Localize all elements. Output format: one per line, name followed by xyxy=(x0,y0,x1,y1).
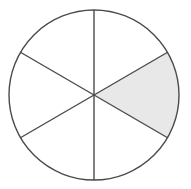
circle-fraction-figure xyxy=(0,0,191,189)
circle-diagram-svg xyxy=(0,0,191,189)
